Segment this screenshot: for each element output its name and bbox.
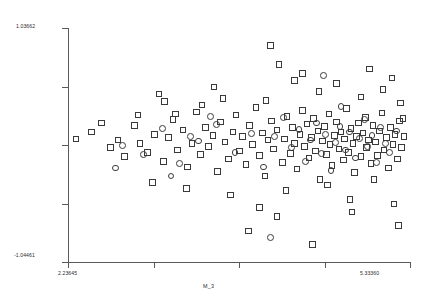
data-point-circle bbox=[232, 149, 239, 156]
data-point-square bbox=[350, 140, 357, 147]
data-point-square bbox=[281, 136, 288, 143]
data-point-circle bbox=[320, 72, 327, 79]
data-point-square bbox=[324, 182, 331, 189]
data-point-square bbox=[253, 104, 260, 111]
data-point-square bbox=[270, 146, 277, 153]
data-point-square bbox=[321, 123, 328, 130]
data-point-square bbox=[88, 129, 95, 136]
data-point-square bbox=[267, 42, 274, 49]
data-point-square bbox=[331, 132, 338, 139]
data-point-circle bbox=[112, 165, 119, 172]
data-point-square bbox=[340, 157, 347, 164]
data-point-square bbox=[121, 153, 128, 160]
data-point-square bbox=[230, 129, 237, 136]
data-point-circle bbox=[318, 150, 325, 157]
data-point-square bbox=[394, 156, 401, 163]
data-point-square bbox=[279, 159, 286, 166]
data-point-square bbox=[245, 228, 252, 235]
data-point-circle bbox=[280, 114, 287, 121]
data-point-circle bbox=[373, 159, 380, 166]
data-point-square bbox=[184, 164, 191, 171]
data-point-square bbox=[315, 128, 322, 135]
data-point-circle bbox=[364, 143, 371, 150]
data-point-square bbox=[73, 136, 80, 143]
data-points-layer bbox=[0, 0, 430, 299]
data-point-circle bbox=[382, 140, 389, 147]
data-point-circle bbox=[267, 234, 274, 241]
data-point-square bbox=[165, 134, 172, 141]
data-point-square bbox=[319, 138, 326, 145]
data-point-square bbox=[222, 139, 229, 146]
data-point-square bbox=[210, 132, 217, 139]
data-point-square bbox=[283, 187, 290, 194]
data-point-square bbox=[249, 141, 256, 148]
data-point-square bbox=[274, 127, 281, 134]
data-point-circle bbox=[248, 130, 255, 137]
data-point-square bbox=[317, 176, 324, 183]
data-point-square bbox=[107, 144, 114, 151]
data-point-circle bbox=[271, 133, 278, 140]
data-point-square bbox=[156, 91, 163, 98]
data-point-square bbox=[349, 209, 356, 216]
data-point-circle bbox=[338, 103, 345, 110]
data-point-circle bbox=[140, 151, 147, 158]
data-point-circle bbox=[187, 133, 194, 140]
data-point-square bbox=[374, 152, 381, 159]
data-point-square bbox=[289, 124, 296, 131]
data-point-square bbox=[347, 196, 354, 203]
data-point-square bbox=[197, 151, 204, 158]
data-point-square bbox=[395, 222, 402, 229]
scatter-plot-canvas: 1.03662 -1.04461 2.23645 5.33360 M_3 bbox=[0, 0, 430, 299]
data-point-square bbox=[233, 112, 240, 119]
data-point-square bbox=[268, 118, 275, 125]
data-point-square bbox=[276, 61, 283, 68]
data-point-circle bbox=[369, 132, 376, 139]
data-point-square bbox=[401, 133, 408, 140]
data-point-square bbox=[172, 111, 179, 118]
data-point-square bbox=[227, 192, 234, 199]
data-point-circle bbox=[288, 144, 295, 151]
data-point-square bbox=[358, 94, 365, 101]
data-point-square bbox=[174, 147, 181, 154]
data-point-square bbox=[256, 152, 263, 159]
data-point-square bbox=[180, 127, 187, 134]
data-point-circle bbox=[176, 160, 183, 167]
data-point-square bbox=[263, 97, 270, 104]
data-point-square bbox=[151, 131, 158, 138]
data-point-square bbox=[351, 169, 358, 176]
data-point-square bbox=[391, 201, 398, 208]
data-point-square bbox=[274, 213, 281, 220]
data-point-square bbox=[199, 102, 206, 109]
data-point-square bbox=[294, 166, 301, 173]
data-point-square bbox=[379, 110, 386, 117]
data-point-circle bbox=[207, 113, 214, 120]
data-point-square bbox=[372, 139, 379, 146]
data-point-square bbox=[389, 75, 396, 82]
data-point-circle bbox=[307, 137, 314, 144]
data-point-square bbox=[202, 124, 209, 131]
data-point-square bbox=[390, 141, 397, 148]
data-point-square bbox=[149, 179, 156, 186]
data-point-circle bbox=[213, 121, 220, 128]
data-point-circle bbox=[337, 123, 344, 130]
data-point-square bbox=[385, 165, 392, 172]
data-point-square bbox=[397, 100, 404, 107]
data-point-circle bbox=[119, 142, 126, 149]
data-point-square bbox=[380, 86, 387, 93]
data-point-square bbox=[304, 121, 311, 128]
data-point-square bbox=[220, 95, 227, 102]
data-point-square bbox=[193, 109, 200, 116]
data-point-square bbox=[161, 98, 168, 105]
data-point-square bbox=[135, 112, 142, 119]
data-point-square bbox=[371, 176, 378, 183]
data-point-circle bbox=[332, 139, 339, 146]
data-point-circle bbox=[361, 116, 368, 123]
data-point-square bbox=[160, 158, 167, 165]
data-point-circle bbox=[168, 173, 175, 180]
data-point-square bbox=[137, 140, 144, 147]
data-point-circle bbox=[302, 158, 309, 165]
data-point-square bbox=[246, 122, 253, 129]
data-point-circle bbox=[159, 125, 166, 132]
data-point-square bbox=[301, 143, 308, 150]
data-point-square bbox=[299, 107, 306, 114]
